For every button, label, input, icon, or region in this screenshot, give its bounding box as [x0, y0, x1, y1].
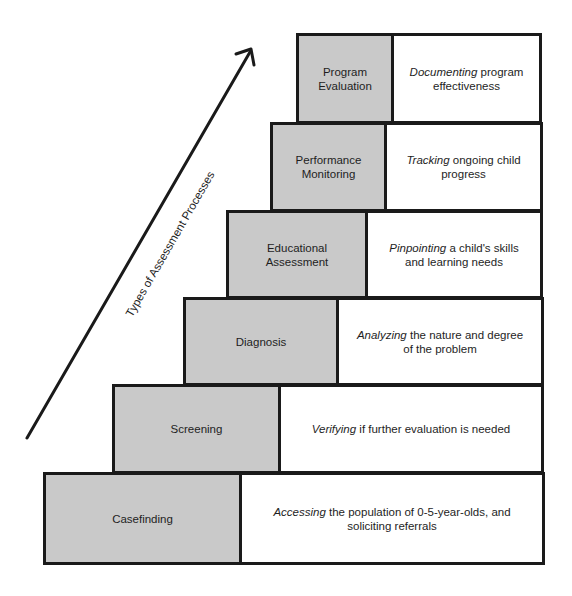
- step-verb: Accessing: [273, 506, 325, 518]
- step-name-label: Educational Assessment: [257, 241, 337, 269]
- step-description: Documenting program effectiveness: [394, 36, 539, 121]
- step-screening: Screening Verifying if further evaluatio…: [112, 384, 544, 474]
- step-diagnosis: Diagnosis Analyzing the nature and degre…: [183, 297, 544, 386]
- step-performance-monitoring: Performance Monitoring Tracking ongoing …: [270, 122, 543, 212]
- step-description-text: Accessing the population of 0-5-year-old…: [267, 505, 517, 533]
- step-description: Analyzing the nature and degree of the p…: [339, 300, 541, 383]
- step-casefinding: Casefinding Accessing the population of …: [43, 472, 545, 565]
- step-description-text: Analyzing the nature and degree of the p…: [353, 328, 528, 356]
- step-description-text: Tracking ongoing child progress: [401, 153, 526, 181]
- step-description-text: Verifying if further evaluation is neede…: [291, 422, 531, 436]
- step-name: Educational Assessment: [229, 213, 368, 296]
- step-description: Verifying if further evaluation is neede…: [281, 387, 541, 471]
- step-verb: Tracking: [406, 154, 449, 166]
- step-name: Diagnosis: [186, 300, 339, 383]
- step-name-label: Program Evaluation: [310, 65, 380, 93]
- assessment-staircase-diagram: Types of Assessment Processes Program Ev…: [0, 0, 572, 596]
- step-description-text: Pinpointing a child's skills and learnin…: [379, 241, 529, 269]
- step-educational-assessment: Educational Assessment Pinpointing a chi…: [226, 210, 543, 299]
- step-name-label: Screening: [171, 422, 223, 436]
- step-name: Program Evaluation: [299, 36, 394, 121]
- step-rest: the nature and degree of the problem: [403, 329, 523, 355]
- step-verb: Pinpointing: [389, 242, 446, 254]
- step-name: Screening: [115, 387, 281, 471]
- step-description: Pinpointing a child's skills and learnin…: [368, 213, 540, 296]
- step-name: Performance Monitoring: [273, 125, 387, 209]
- step-verb: Documenting: [410, 66, 478, 78]
- step-rest: ongoing child progress: [441, 154, 520, 180]
- step-rest: if further evaluation is needed: [356, 423, 510, 435]
- step-rest: the population of 0-5-year-olds, and sol…: [326, 506, 511, 532]
- step-verb: Verifying: [312, 423, 356, 435]
- step-name-label: Diagnosis: [236, 335, 287, 349]
- step-name-label: Performance Monitoring: [284, 153, 374, 181]
- step-name: Casefinding: [46, 475, 242, 562]
- step-verb: Analyzing: [357, 329, 407, 341]
- step-name-label: Casefinding: [112, 512, 173, 526]
- step-program-evaluation: Program Evaluation Documenting program e…: [296, 33, 542, 124]
- step-description: Accessing the population of 0-5-year-old…: [242, 475, 542, 562]
- step-description-text: Documenting program effectiveness: [404, 65, 529, 93]
- step-description: Tracking ongoing child progress: [387, 125, 540, 209]
